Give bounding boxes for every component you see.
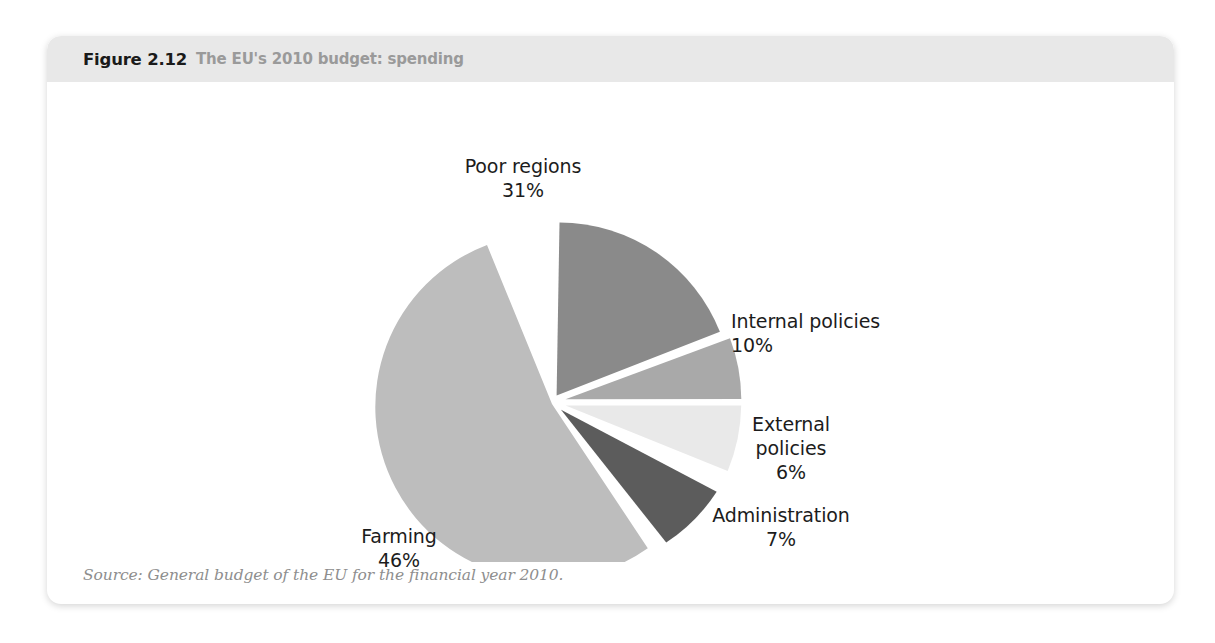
figure-body: Poor regions 31% Internal policies 10% E… xyxy=(47,82,1174,562)
pie-label-administration: Administration 7% xyxy=(676,503,886,551)
figure-card: Figure 2.12 The EU's 2010 budget: spendi… xyxy=(47,36,1174,604)
pie-label-internal-policies: Internal policies 10% xyxy=(731,309,951,357)
figure-page: Figure 2.12 The EU's 2010 budget: spendi… xyxy=(0,0,1215,643)
pie-label-external-policies: External policies 6% xyxy=(716,412,866,484)
figure-source-note: Source: General budget of the EU for the… xyxy=(83,566,563,584)
pie-chart: Poor regions 31% Internal policies 10% E… xyxy=(47,82,1174,562)
pie-label-farming: Farming 46% xyxy=(319,524,479,572)
pie-label-poor-regions: Poor regions 31% xyxy=(423,154,623,202)
figure-header-text-group: Figure 2.12 The EU's 2010 budget: spendi… xyxy=(83,36,464,82)
figure-caption: The EU's 2010 budget: spending xyxy=(196,50,464,68)
figure-number: Figure 2.12 xyxy=(83,50,187,69)
figure-header-band: Figure 2.12 The EU's 2010 budget: spendi… xyxy=(47,36,1174,82)
